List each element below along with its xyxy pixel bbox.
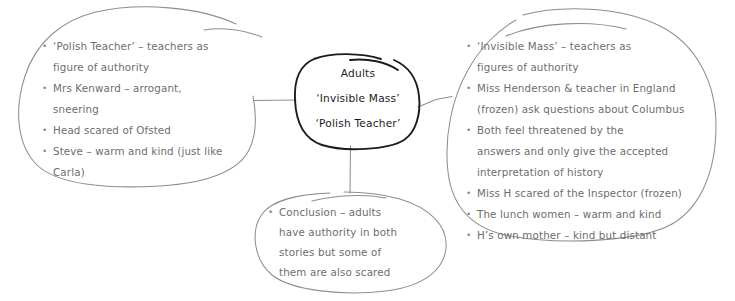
list-item: The lunch women – warm and kind — [466, 204, 721, 225]
bullet-main: Miss H scared of the Inspector (frozen) — [477, 187, 682, 199]
bullet-main: H’s own mother – kind but distant — [477, 229, 656, 241]
list-item: Miss H scared of the Inspector (frozen) — [466, 183, 721, 204]
center-node-line-3: ‘Polish Teacher’ — [296, 111, 420, 136]
list-item: Mrs Kenward – arrogant, sneering — [42, 78, 252, 120]
left-branch-bullet-list: ‘Polish Teacher’ – teachers as figure of… — [42, 36, 252, 183]
bullet-cont: (frozen) ask questions about Columbus — [477, 99, 721, 120]
list-item: ‘Polish Teacher’ – teachers as figure of… — [42, 36, 252, 78]
center-node-line-1: Adults — [296, 61, 420, 86]
bottom-branch-text: Conclusion – adults have authority in bo… — [268, 202, 448, 282]
bullet-cont: figures of authority — [477, 57, 721, 78]
connector-left — [254, 100, 297, 101]
bullet-main: Both feel threatened by the — [477, 124, 624, 136]
bullet-cont: answers and only give the accepted — [477, 141, 721, 162]
list-item: Conclusion – adults have authority in bo… — [268, 202, 448, 282]
connector-right — [418, 97, 452, 108]
bullet-main: Head scared of Ofsted — [53, 124, 171, 136]
bullet-main: Miss Henderson & teacher in England — [477, 82, 676, 94]
list-item: ‘Invisible Mass’ – teachers as figures o… — [466, 36, 721, 78]
bullet-main: The lunch women – warm and kind — [477, 208, 661, 220]
right-branch-text: ‘Invisible Mass’ – teachers as figures o… — [466, 36, 721, 246]
center-node-line-2: ‘Invisible Mass’ — [296, 86, 420, 111]
bullet-cont: figure of authority — [53, 57, 252, 78]
list-item: Both feel threatened by the answers and … — [466, 120, 721, 183]
left-branch-text: ‘Polish Teacher’ – teachers as figure of… — [42, 36, 252, 183]
bullet-cont: sneering — [53, 99, 252, 120]
list-item: Miss Henderson & teacher in England (fro… — [466, 78, 721, 120]
list-item: Steve – warm and kind (just like Carla) — [42, 141, 252, 183]
bullet-cont: Carla) — [53, 162, 252, 183]
bullet-main: ‘Invisible Mass’ – teachers as — [477, 40, 631, 52]
bullet-main: ‘Polish Teacher’ – teachers as — [53, 40, 208, 52]
bullet-main: Conclusion – adults — [279, 206, 381, 218]
right-branch-bullet-list: ‘Invisible Mass’ – teachers as figures o… — [466, 36, 721, 246]
bottom-branch-bullet-list: Conclusion – adults have authority in bo… — [268, 202, 448, 282]
bullet-cont: have authority in both — [279, 222, 448, 242]
connector-bottom — [350, 146, 351, 193]
bullet-main: Steve – warm and kind (just like — [53, 145, 222, 157]
bullet-cont: stories but some of — [279, 242, 448, 262]
bottom-bubble-outline-overlap — [312, 196, 386, 201]
list-item: Head scared of Ofsted — [42, 120, 252, 141]
center-node-text: Adults ‘Invisible Mass’ ‘Polish Teacher’ — [296, 61, 420, 136]
right-bubble-outline-overlap — [506, 24, 626, 36]
list-item: H’s own mother – kind but distant — [466, 225, 721, 246]
mind-map-canvas: Adults ‘Invisible Mass’ ‘Polish Teacher’… — [0, 0, 735, 301]
bullet-cont: them are also scared — [279, 262, 448, 282]
bullet-main: Mrs Kenward – arrogant, — [53, 82, 182, 94]
bullet-cont: interpretation of history — [477, 162, 721, 183]
